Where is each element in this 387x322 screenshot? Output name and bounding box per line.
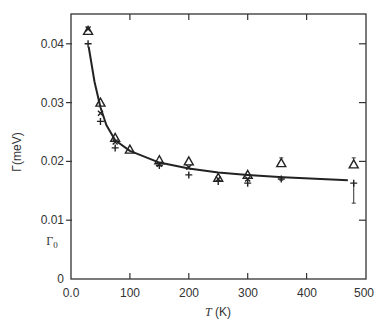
y-tick-label: 0.02 [41, 154, 65, 168]
triangle-marker [84, 26, 93, 34]
y-tick-label: 0.03 [41, 96, 65, 110]
plus-marker [350, 180, 357, 187]
x-axis-title: T (K) [205, 305, 231, 319]
fit-curve [89, 47, 348, 180]
triangle-marker [277, 159, 286, 167]
x-tick-label: 0.0 [63, 286, 80, 300]
plot-area [84, 26, 359, 203]
x-tick-label: 500 [354, 286, 374, 300]
x-tick-label: 200 [179, 286, 199, 300]
x-tick-label: 300 [238, 286, 258, 300]
y-axis-title: Γ(meV) [10, 132, 24, 171]
gamma0-label: Γ0 [46, 234, 58, 250]
triangle-series [84, 26, 359, 181]
y-tick-label: 0.01 [41, 213, 65, 227]
y-tick-label: 0 [57, 272, 64, 286]
x-tick-labels: 0.0 100 200 300 400 500 [63, 286, 375, 300]
plus-marker [97, 118, 104, 125]
triangle-marker [349, 160, 358, 168]
plus-marker [112, 144, 119, 151]
triangle-marker [184, 157, 193, 165]
x-tick-label: 100 [120, 286, 140, 300]
y-tick-label: 0.04 [41, 37, 65, 51]
fit-series [89, 47, 348, 180]
plus-marker [85, 40, 92, 47]
plus-marker [185, 171, 192, 178]
chart: 0.0 100 200 300 400 500 0 0.01 0.02 0.03… [0, 0, 387, 322]
x-tick-label: 400 [297, 286, 317, 300]
cross-series [86, 27, 251, 182]
axis-ticks [66, 14, 366, 279]
